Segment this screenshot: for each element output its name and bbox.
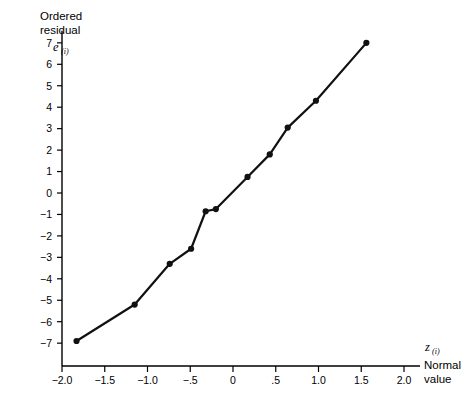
chart-canvas: −7−6−5−4−3−2−101234567 −2.0−1.5−1.0−.50.…: [0, 0, 474, 408]
y-tick-label: −4: [40, 273, 52, 285]
data-point: [363, 40, 369, 46]
data-series: [73, 40, 369, 344]
data-point: [313, 98, 319, 104]
y-tick-label: 7: [46, 37, 52, 49]
y-tick-label: −5: [40, 294, 52, 306]
y-tick-label: 3: [46, 122, 52, 134]
x-tick-label: −2.0: [52, 374, 73, 386]
x-axis-title-line2: value: [424, 373, 452, 385]
series-line: [77, 43, 367, 341]
x-tick-label: 2.0: [397, 374, 412, 386]
x-tick-label: −.5: [183, 374, 198, 386]
y-tick-label: −7: [40, 337, 52, 349]
y-axis-title-line1: Ordered: [40, 10, 82, 22]
y-tick-label: −3: [40, 251, 52, 263]
data-point: [244, 174, 250, 180]
data-point: [132, 301, 138, 307]
x-axis-symbol-subscript: (i): [432, 347, 440, 356]
x-tick-label: −1.5: [94, 374, 115, 386]
x-tick-label: 0: [230, 374, 236, 386]
y-tick-label: −1: [40, 208, 52, 220]
data-point: [213, 206, 219, 212]
data-point: [73, 338, 79, 344]
y-tick-label: 2: [46, 144, 52, 156]
y-axis-symbol-subscript: (i): [61, 47, 69, 56]
data-point: [167, 261, 173, 267]
series-markers: [73, 40, 369, 344]
x-axis-title-line1: Normal: [424, 359, 461, 371]
x-tick-label: .5: [271, 374, 280, 386]
y-tick-label: 5: [46, 80, 52, 92]
y-tick-label: 4: [46, 101, 52, 113]
x-axis-ticks: −2.0−1.5−1.0−.50.51.01.52.0: [52, 366, 412, 386]
y-axis-ticks: −7−6−5−4−3−2−101234567: [40, 37, 62, 349]
y-axis-title-line2: residual: [40, 24, 80, 36]
x-axis-symbol: z: [424, 340, 430, 354]
y-tick-label: 6: [46, 58, 52, 70]
x-tick-label: 1.0: [311, 374, 326, 386]
data-point: [285, 124, 291, 130]
data-point: [267, 151, 273, 157]
y-tick-label: −6: [40, 316, 52, 328]
y-tick-label: −2: [40, 230, 52, 242]
x-tick-label: −1.0: [137, 374, 158, 386]
x-tick-label: 1.5: [354, 374, 369, 386]
y-axis-symbol: e: [53, 40, 59, 54]
data-point: [188, 246, 194, 252]
normal-probability-plot: −7−6−5−4−3−2−101234567 −2.0−1.5−1.0−.50.…: [0, 0, 474, 408]
data-point: [203, 208, 209, 214]
y-tick-label: 0: [46, 187, 52, 199]
y-tick-label: 1: [46, 165, 52, 177]
